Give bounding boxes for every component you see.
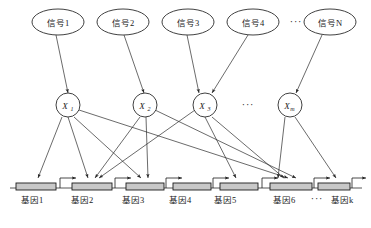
factor-subscript: 3 [207,106,211,112]
edge-x2-to-gene2 [95,117,140,178]
edge-signaln-to-xm [296,35,322,93]
signal-node-1[interactable]: 信号1 [32,9,84,35]
gene-label-k: 基因k [331,195,354,205]
gene-label-2: 基因2 [71,195,93,205]
gene-box-4[interactable] [173,183,211,190]
signal-label: 信号N [318,18,342,28]
signal-row-ellipsis: ··· [290,16,302,27]
gene-box-k[interactable] [318,183,350,190]
promoter-arrow [352,178,366,188]
factor-node-xm[interactable]: X m [278,93,302,117]
signal-node-n[interactable]: 信号N [304,9,356,35]
factor-label: X [61,101,68,111]
signal-label: 信号4 [242,18,265,28]
factor-node-x1[interactable]: X 1 [56,93,80,117]
edge-x2-to-gene6 [155,110,296,178]
gene-box-1[interactable] [16,183,56,190]
gene-row-ellipsis: ··· [311,193,323,204]
factor-circle [133,93,157,117]
signal-label: 信号2 [112,18,134,28]
factor-subscript: 2 [148,106,151,112]
signal-node-3[interactable]: 信号3 [162,9,214,35]
gene-label-4: 基因4 [169,195,192,205]
signal-label: 信号1 [47,18,69,28]
factor-row-ellipsis: ··· [242,99,254,110]
edge-x1-to-gene2 [68,117,88,178]
signal-node-2[interactable]: 信号2 [97,9,149,35]
gene-box-5[interactable] [220,183,258,190]
signal-nodes: 信号1 信号2 信号3 信号4 信号N ··· [32,9,356,35]
factor-node-x3[interactable]: X 3 [193,93,217,117]
edge-x3-to-gene5 [205,117,236,178]
factor-label: X [198,101,205,111]
edge-x1-to-gene3 [74,117,141,178]
regulatory-network-diagram: 信号1 信号2 信号3 信号4 信号N ··· [0,0,371,228]
edge-x2-to-gene3 [146,117,148,178]
gene-label-1: 基因1 [21,195,43,205]
gene-boxes [16,183,350,190]
edge-signal4-to-x3 [212,35,248,93]
factor-subscript: m [290,106,295,112]
diagram-canvas: 信号1 信号2 信号3 信号4 信号N ··· [0,0,371,228]
signal-to-factor-edges [56,35,322,93]
gene-box-2[interactable] [72,183,112,190]
edge-xm-to-genek [295,117,336,178]
signal-node-4[interactable]: 信号4 [227,9,279,35]
gene-label-6: 基因6 [273,195,295,205]
gene-label-3: 基因3 [122,195,144,205]
factor-label: X [138,101,145,111]
edge-x3-to-gene2 [99,110,195,178]
edge-x3-to-gene6 [212,117,284,178]
edge-xm-to-gene6 [278,117,285,178]
gene-label-5: 基因5 [214,195,236,205]
factor-label: X [283,101,290,111]
factor-circle [56,93,80,117]
edge-signal3-to-x3 [187,35,199,93]
factor-node-x2[interactable]: X 2 [133,93,157,117]
edge-x1-to-gene1 [38,117,62,178]
edge-signal2-to-x2 [124,35,144,93]
gene-box-6[interactable] [270,183,312,190]
gene-labels: 基因1 基因2 基因3 基因4 基因5 基因6 基因k ··· [21,193,354,205]
edge-signal1-to-x1 [56,35,68,93]
gene-box-3[interactable] [126,183,164,190]
signal-label: 信号3 [177,18,199,28]
factor-circle [193,93,217,117]
edge-x1-to-gene6 [79,110,288,178]
factor-subscript: 1 [71,106,74,112]
factor-to-gene-edges [38,110,336,178]
factor-nodes: X 1 X 2 X 3 X m ··· [56,93,302,117]
